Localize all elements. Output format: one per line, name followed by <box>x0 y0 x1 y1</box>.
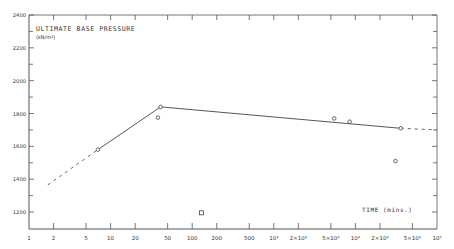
x-tick-label: 100 <box>187 235 198 241</box>
y-tick-label: 1400 <box>13 176 26 182</box>
data-point-square <box>199 211 203 215</box>
y-tick-label: 2200 <box>13 45 26 51</box>
x-tick-label: 500 <box>244 235 255 241</box>
trend-lines <box>48 107 437 185</box>
trend-line <box>98 107 401 150</box>
x-tick-label: 10³ <box>269 235 278 241</box>
data-point-circle <box>159 105 163 109</box>
chart: 12510205010020050010³2×10³5×10³10⁴2×10⁴5… <box>0 0 454 249</box>
y-tick-label: 1200 <box>13 209 26 215</box>
x-tick-label: 5×10⁴ <box>404 235 422 241</box>
data-markers <box>96 105 402 215</box>
x-tick-label: 5 <box>84 235 88 241</box>
data-point-circle <box>399 126 403 130</box>
x-tick-label: 2×10⁴ <box>371 235 389 241</box>
x-tick-label: 50 <box>164 235 171 241</box>
y-tick-label: 1600 <box>13 143 26 149</box>
y-axis-units: (kN/m²) <box>36 34 55 40</box>
extrapolation-line <box>401 128 437 130</box>
x-tick-label: 2×10³ <box>290 235 307 241</box>
y-tick-label: 1800 <box>13 111 26 117</box>
x-tick-label: 20 <box>132 235 139 241</box>
y-tick-label: 2000 <box>13 78 26 84</box>
x-tick-label: 10 <box>107 235 114 241</box>
data-point-circle <box>156 116 160 120</box>
data-point-circle <box>394 159 398 163</box>
axes <box>29 15 437 229</box>
data-point-circle <box>348 120 352 124</box>
x-tick-label: 2 <box>52 235 56 241</box>
x-axis-title: TIME (mins.) <box>362 206 413 213</box>
y-tick-label: 2400 <box>13 12 26 18</box>
x-tick-label: 10⁵ <box>432 235 441 241</box>
y-axis-title: ULTIMATE BASE PRESSURE <box>36 25 135 33</box>
data-point-circle <box>332 117 336 121</box>
x-tick-label: 1 <box>27 235 31 241</box>
x-tick-label: 10⁴ <box>351 235 361 241</box>
data-point-circle <box>96 148 100 152</box>
extrapolation-line <box>48 150 98 185</box>
x-tick-label: 5×10³ <box>322 235 339 241</box>
x-tick-label: 200 <box>212 235 223 241</box>
